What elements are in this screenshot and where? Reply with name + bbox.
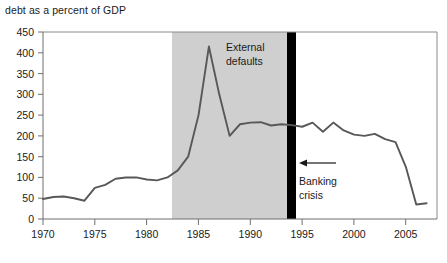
chart-figure: debt as a percent of GDP (0, 0, 447, 263)
x-axis-ticks (43, 219, 406, 225)
x-tick-label: 1980 (135, 228, 159, 240)
x-tick-label: 1970 (31, 228, 55, 240)
x-tick-label: 1995 (290, 228, 314, 240)
y-axis-ticks (38, 32, 43, 219)
y-axis-tick-labels: 450 400 350 300 250 200 150 100 50 0 (16, 26, 34, 225)
x-axis-tick-labels: 1970 1975 1980 1985 1990 1995 2000 2005 (31, 228, 417, 240)
y-tick-label: 300 (16, 88, 34, 100)
y-tick-label: 150 (16, 151, 34, 163)
x-tick-label: 2000 (342, 228, 366, 240)
external-defaults-label-line2: defaults (226, 55, 263, 67)
chart-canvas: 450 400 350 300 250 200 150 100 50 0 (0, 0, 447, 263)
x-tick-label: 1985 (187, 228, 211, 240)
chart-svg: 450 400 350 300 250 200 150 100 50 0 (0, 0, 447, 263)
banking-crisis-label-line1: Banking (299, 175, 337, 187)
y-tick-label: 100 (16, 171, 34, 183)
x-tick-label: 1990 (239, 228, 263, 240)
y-tick-label: 450 (16, 26, 34, 38)
y-tick-label: 250 (16, 109, 34, 121)
x-tick-label: 2005 (394, 228, 418, 240)
y-tick-label: 400 (16, 47, 34, 59)
y-tick-label: 350 (16, 68, 34, 80)
y-tick-label: 50 (22, 192, 34, 204)
y-tick-label: 200 (16, 130, 34, 142)
banking-crisis-label-line2: crisis (299, 189, 323, 201)
external-defaults-label-line1: External (226, 41, 265, 53)
y-tick-label: 0 (28, 213, 34, 225)
x-tick-label: 1975 (83, 228, 107, 240)
